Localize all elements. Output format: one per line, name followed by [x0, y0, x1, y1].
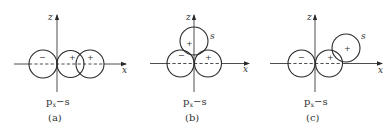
panel-caption-a: (a)	[48, 112, 62, 123]
sign-negative: −	[39, 53, 46, 62]
panel-label-rest: −s	[314, 96, 328, 107]
panel-label-main: p	[46, 96, 52, 107]
sign-negative: −	[178, 51, 185, 60]
z-axis-label: z	[185, 12, 191, 22]
orbital-overlap-figure: z x − + + p x −s (a) z x − + + s p x −s …	[0, 0, 392, 134]
panel-label-main: p	[183, 96, 189, 107]
sign-positive-s: +	[87, 53, 94, 62]
sign-positive-s: +	[186, 39, 193, 48]
sign-positive-p: +	[327, 53, 334, 62]
x-axis-label: x	[243, 64, 248, 74]
sign-negative: −	[298, 53, 305, 62]
panel-c: z x − + + s p x −s (c)	[270, 12, 383, 123]
x-axis-label: x	[122, 65, 127, 75]
panel-label-main: p	[304, 96, 310, 107]
panel-a: z x − + + p x −s (a)	[14, 12, 127, 123]
sign-positive-s: +	[344, 44, 351, 53]
panel-label-rest: −s	[56, 96, 70, 107]
s-orbital-label: s	[210, 31, 215, 41]
sign-positive-p: +	[69, 53, 76, 62]
panel-b: z x − + + s p x −s (b)	[150, 12, 249, 123]
panel-caption-b: (b)	[185, 112, 199, 123]
sign-positive-p: +	[205, 53, 212, 62]
z-axis-label: z	[306, 12, 312, 22]
panel-caption-c: (c)	[306, 112, 320, 123]
panel-label-rest: −s	[193, 96, 207, 107]
x-axis-label: x	[378, 65, 383, 75]
z-axis-label: z	[47, 12, 53, 22]
s-orbital-label: s	[361, 31, 366, 41]
